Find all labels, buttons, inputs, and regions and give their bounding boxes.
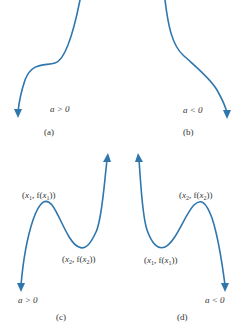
caption-a: (a) [44,127,54,137]
local-max-label-d: (x2, f(x2)) [179,190,213,201]
curve-b [165,0,227,113]
local-min-label-d: (x1, f(x1)) [144,255,178,266]
caption-d: (d) [177,312,188,322]
condition-label-d: a < 0 [205,295,225,305]
caption-b: (b) [183,127,194,137]
panel-d: (x2, f(x2)) (x1, f(x1)) a < 0 (d) [135,153,229,322]
arrow-down-icon [223,110,231,119]
caption-c: (c) [56,312,66,322]
panel-b: a < 0 (b) [165,0,231,137]
local-min-label-c: (x2, f(x2)) [62,254,96,265]
arrow-up-icon [135,153,143,162]
arrow-down-icon [17,283,25,292]
condition-label-b: a < 0 [183,105,203,115]
curve-a [18,0,80,112]
curve-d [139,160,225,285]
arrow-down-icon [14,109,22,118]
panel-a: a > 0 (a) [14,0,80,137]
condition-label-a: a > 0 [50,104,70,114]
curve-c [21,160,107,285]
cubic-graphs-figure: a > 0 (a) a < 0 (b) (x1, f(x1)) (x2, f(x… [0,0,245,336]
arrow-up-icon [103,153,111,162]
local-max-label-c: (x1, f(x1)) [22,190,56,201]
arrow-down-icon [221,283,229,292]
condition-label-c: a > 0 [18,295,38,305]
panel-c: (x1, f(x1)) (x2, f(x2)) a > 0 (c) [17,153,111,322]
